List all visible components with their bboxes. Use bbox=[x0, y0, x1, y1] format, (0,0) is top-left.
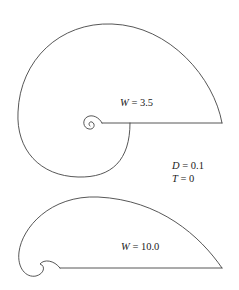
w-value: = 3.5 bbox=[129, 97, 153, 108]
w-variable: W bbox=[120, 97, 129, 108]
d-value: = 0.1 bbox=[180, 160, 204, 171]
d-variable: D bbox=[172, 160, 180, 171]
shell-w35-inner-spiral bbox=[84, 116, 102, 129]
d-parameter-label: D = 0.1 bbox=[172, 160, 204, 171]
shell-w10-outer-whorl bbox=[19, 197, 222, 276]
w-variable: W bbox=[121, 241, 130, 252]
shell-w10-label: W = 10.0 bbox=[121, 241, 159, 252]
w-value: = 10.0 bbox=[130, 241, 160, 252]
shell-w35-label: W = 3.5 bbox=[120, 97, 153, 108]
t-value: = 0 bbox=[178, 173, 194, 184]
shell-w10-outline bbox=[19, 197, 222, 276]
shell-coiling-diagram bbox=[0, 0, 239, 290]
t-parameter-label: T = 0 bbox=[172, 173, 194, 184]
